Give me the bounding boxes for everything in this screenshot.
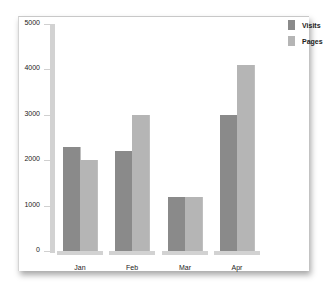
x-tick-label: Feb (112, 264, 152, 271)
y-axis (50, 24, 55, 253)
bar-visits-feb (115, 151, 132, 251)
x-axis-segment (162, 251, 208, 255)
chart-card (18, 16, 309, 271)
x-tick-label: Apr (217, 264, 257, 271)
bar-visits-mar (168, 197, 185, 251)
x-tick-label: Mar (165, 264, 205, 271)
y-tick-label: 5000 (18, 19, 40, 26)
bar-pages-feb (132, 115, 149, 251)
legend-label: Pages (302, 38, 323, 45)
bar-visits-jan (63, 147, 80, 251)
bar-visits-apr (220, 115, 237, 251)
legend-label: Visits (302, 22, 321, 29)
x-axis-segment (214, 251, 260, 255)
legend-swatch-pages (288, 36, 295, 46)
x-axis-segment (109, 251, 155, 255)
bar-pages-apr (237, 65, 254, 251)
x-tick-label: Jan (60, 264, 100, 271)
bar-pages-jan (80, 160, 97, 251)
legend-item-visits: Visits (288, 20, 321, 30)
bar-pages-mar (185, 197, 202, 251)
legend-swatch-visits (288, 20, 295, 30)
y-tick-label: 2000 (18, 155, 40, 162)
legend-item-pages: Pages (288, 36, 323, 46)
y-tick-label: 3000 (18, 110, 40, 117)
y-tick-label: 4000 (18, 64, 40, 71)
x-axis-segment (57, 251, 103, 255)
y-tick-label: 0 (18, 246, 40, 253)
y-tick-label: 1000 (18, 201, 40, 208)
